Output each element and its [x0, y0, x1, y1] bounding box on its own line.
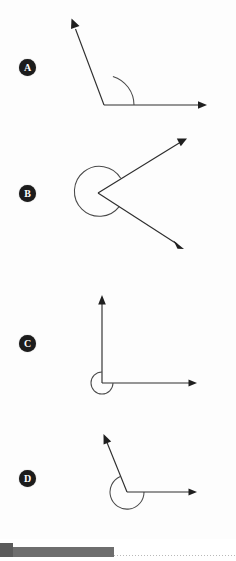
figure-b-ray-lower-right	[98, 193, 177, 244]
figure-b-reflex-arc	[74, 166, 120, 216]
figure-d: D	[0, 415, 236, 540]
figure-d-ray-upper-left	[107, 443, 127, 493]
bottom-strip	[0, 539, 236, 561]
figure-d-reflex-arc	[110, 477, 144, 510]
figure-a-drawing	[0, 0, 236, 130]
figure-a: A	[0, 0, 236, 130]
figure-b-arrowhead-upper-right	[177, 138, 187, 146]
figure-c-drawing	[0, 275, 236, 415]
figure-a-arrowhead-upper-left	[71, 19, 80, 30]
figure-d-arrowhead-upper-left	[104, 434, 112, 445]
figure-b-arrowhead-lower-right	[174, 241, 185, 250]
figure-d-drawing	[0, 415, 236, 540]
scrollbar-handle[interactable]	[0, 543, 13, 557]
scrollbar-track-filled[interactable]	[13, 547, 114, 557]
figure-c: C	[0, 275, 236, 415]
angle-worksheet: A B C	[0, 0, 236, 561]
figure-b-drawing	[0, 130, 236, 275]
dotted-divider	[114, 555, 236, 556]
figure-c-arrowhead-right	[189, 380, 198, 387]
figure-b: B	[0, 130, 236, 275]
figure-d-arrowhead-right	[189, 489, 198, 496]
figure-b-ray-upper-right	[98, 143, 180, 194]
figure-c-arrowhead-up	[98, 295, 106, 305]
figure-a-arrowhead-right	[198, 101, 207, 109]
figure-a-ray-upper-left	[76, 29, 105, 105]
figure-a-angle-arc	[113, 76, 134, 105]
